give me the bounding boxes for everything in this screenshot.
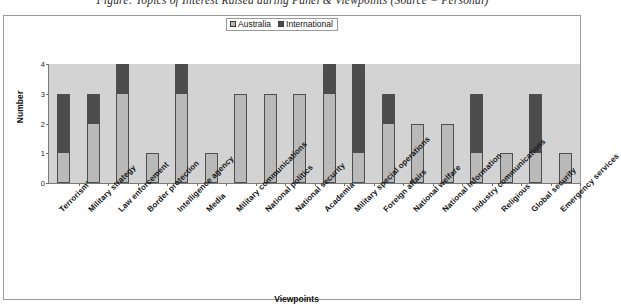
- y-tick-label-1: 1: [41, 149, 45, 158]
- legend-swatch-international-icon: [278, 21, 284, 27]
- x-tick-mark: [285, 183, 286, 186]
- x-tick-mark: [256, 183, 257, 186]
- legend-item-international: International: [278, 20, 333, 29]
- bar-segment-australia[interactable]: [88, 124, 99, 182]
- bar-stack[interactable]: [352, 64, 365, 183]
- bar-segment-international[interactable]: [471, 95, 482, 153]
- x-axis-label: Media: [205, 191, 228, 214]
- bar-segment-international[interactable]: [88, 95, 99, 124]
- bar-stack[interactable]: [293, 94, 306, 183]
- bar-segment-international[interactable]: [530, 95, 541, 153]
- x-tick-mark: [315, 183, 316, 186]
- legend-swatch-australia-icon: [230, 21, 236, 27]
- bar-group[interactable]: [315, 64, 345, 183]
- x-tick-mark: [374, 183, 375, 186]
- bar-stack[interactable]: [234, 94, 247, 183]
- bar-segment-international[interactable]: [353, 65, 364, 153]
- bar-group[interactable]: [462, 64, 492, 183]
- bar-stack[interactable]: [175, 64, 188, 183]
- chart-legend: Australia International: [226, 18, 338, 31]
- bar-stack[interactable]: [323, 64, 336, 183]
- bar-stack[interactable]: [116, 64, 129, 183]
- chart-frame: Australia International Number 01234 Ter…: [3, 15, 581, 300]
- bar-group[interactable]: [197, 64, 227, 183]
- legend-item-australia: Australia: [230, 20, 271, 29]
- bar-segment-australia[interactable]: [530, 153, 541, 182]
- bar-group[interactable]: [403, 64, 433, 183]
- bar-stack[interactable]: [559, 153, 572, 183]
- bar-segment-australia[interactable]: [560, 154, 571, 182]
- legend-label-international: International: [286, 20, 333, 29]
- bar-segment-australia[interactable]: [58, 153, 69, 182]
- bar-group[interactable]: [138, 64, 168, 183]
- bar-group[interactable]: [256, 64, 286, 183]
- bar-stack[interactable]: [57, 94, 70, 183]
- bar-stack[interactable]: [500, 153, 513, 183]
- y-tick-mark-0: [46, 183, 49, 184]
- y-tick-label-3: 3: [41, 89, 45, 98]
- x-tick-mark: [580, 183, 581, 186]
- bar-segment-international[interactable]: [58, 95, 69, 153]
- bar-group[interactable]: [167, 64, 197, 183]
- bar-segment-australia[interactable]: [294, 95, 305, 182]
- bar-segment-australia[interactable]: [147, 154, 158, 182]
- bar-group[interactable]: [226, 64, 256, 183]
- bar-group[interactable]: [433, 64, 463, 183]
- bar-stack[interactable]: [411, 124, 424, 184]
- bar-segment-australia[interactable]: [324, 94, 335, 182]
- figure-caption: Figure: Topics of Interest Raised during…: [0, 0, 585, 8]
- bar-stack[interactable]: [264, 94, 277, 183]
- x-tick-mark: [551, 183, 552, 186]
- bar-segment-australia[interactable]: [176, 94, 187, 182]
- y-tick-label-0: 0: [41, 179, 45, 188]
- x-tick-mark: [521, 183, 522, 186]
- bar-segment-australia[interactable]: [235, 95, 246, 182]
- bar-segment-international[interactable]: [383, 95, 394, 124]
- bar-stack[interactable]: [441, 124, 454, 184]
- bar-segment-australia[interactable]: [471, 153, 482, 182]
- bar-group[interactable]: [79, 64, 109, 183]
- bar-stack[interactable]: [146, 153, 159, 183]
- bar-stack[interactable]: [529, 94, 542, 183]
- bar-stack[interactable]: [470, 94, 483, 183]
- bar-segment-international[interactable]: [117, 65, 128, 94]
- bar-group[interactable]: [492, 64, 522, 183]
- x-tick-mark: [138, 183, 139, 186]
- x-axis-label: Religious: [500, 182, 532, 214]
- x-tick-mark: [344, 183, 345, 186]
- x-axis-label: Terrorism': [57, 180, 91, 214]
- x-tick-mark: [492, 183, 493, 186]
- x-tick-mark: [403, 183, 404, 186]
- bar-segment-australia[interactable]: [383, 124, 394, 182]
- bar-segment-international[interactable]: [176, 65, 187, 94]
- x-axis-title: Viewpoints: [4, 294, 589, 304]
- bar-group[interactable]: [374, 64, 404, 183]
- y-axis-title: Number: [15, 77, 25, 137]
- bar-segment-australia[interactable]: [412, 125, 423, 183]
- x-tick-mark: [197, 183, 198, 186]
- bar-stack[interactable]: [382, 94, 395, 183]
- legend-label-australia: Australia: [238, 20, 271, 29]
- bar-segment-international[interactable]: [324, 65, 335, 94]
- bar-group[interactable]: [521, 64, 551, 183]
- bar-segment-australia[interactable]: [353, 153, 364, 182]
- bar-group[interactable]: [344, 64, 374, 183]
- x-tick-mark: [226, 183, 227, 186]
- bar-segment-australia[interactable]: [442, 125, 453, 183]
- bar-group[interactable]: [285, 64, 315, 183]
- x-tick-mark: [462, 183, 463, 186]
- bar-group[interactable]: [49, 64, 79, 183]
- plot-area: 01234: [48, 64, 580, 184]
- bar-segment-australia[interactable]: [265, 95, 276, 182]
- bar-group[interactable]: [108, 64, 138, 183]
- x-tick-mark: [79, 183, 80, 186]
- y-tick-label-2: 2: [41, 119, 45, 128]
- bar-stack[interactable]: [205, 153, 218, 183]
- bar-stack[interactable]: [87, 94, 100, 183]
- bar-segment-australia[interactable]: [501, 154, 512, 182]
- bar-segment-australia[interactable]: [117, 94, 128, 182]
- x-tick-mark: [167, 183, 168, 186]
- bar-group[interactable]: [551, 64, 581, 183]
- y-tick-label-4: 4: [41, 60, 45, 69]
- bar-segment-australia[interactable]: [206, 154, 217, 182]
